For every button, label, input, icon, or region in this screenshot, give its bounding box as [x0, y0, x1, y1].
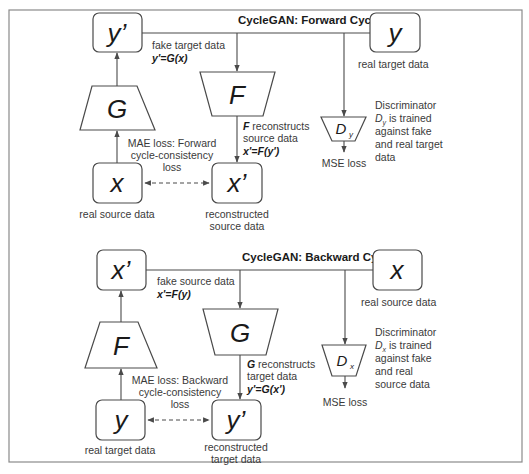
reconstructed-source-node: x’ — [212, 163, 262, 203]
dx-mse-loss: MSE loss — [323, 396, 367, 408]
reconstructed-target-node: y’ — [212, 400, 261, 440]
backward-cycle-title: CycleGAN: Backward Cycle — [242, 251, 393, 263]
dx-desc-4: and real — [375, 365, 413, 377]
g-reconstructs-equation: y'=G(x') — [246, 383, 285, 395]
f-reconstructs-caption: F reconstructs — [243, 120, 310, 132]
dx-desc-3: against fake — [375, 352, 432, 364]
real-source-caption: real source data — [79, 208, 154, 220]
reconstructed-source-caption-1: reconstructed — [205, 208, 269, 220]
dy-desc-1: Discriminator — [375, 99, 437, 111]
reconstructed-target-caption-2: target data — [211, 453, 261, 465]
fake-source-equation: x'=F(y) — [156, 288, 191, 300]
backward-real-target-node: y — [96, 400, 145, 440]
forward-cycle-loss-3: loss — [163, 161, 182, 173]
dx-desc-1: Discriminator — [375, 326, 437, 338]
dx-desc-5: source data — [375, 378, 430, 390]
backward-cycle-loss-2: cycle-consistency — [139, 386, 222, 398]
dy-desc-4: and real target — [375, 138, 443, 150]
backward-cycle-loss-1: MAE loss: Backward — [132, 374, 228, 386]
generator-f-symbol: F — [229, 80, 247, 110]
generator-f-backward-symbol: F — [113, 331, 131, 361]
backward-real-target-caption: real target data — [85, 444, 156, 456]
generator-g-backward-symbol: G — [230, 318, 250, 348]
real-target-symbol: y — [387, 18, 404, 48]
dy-desc-3: against fake — [375, 125, 432, 137]
discriminator-dx-symbol: D — [337, 352, 348, 369]
fake-target-caption: fake target data — [152, 39, 225, 51]
g-reconstructs-caption: G reconstructs — [247, 358, 315, 370]
backward-real-target-symbol: y — [113, 405, 130, 435]
reconstructed-source-symbol: x’ — [226, 168, 248, 198]
fake-target-symbol: y’ — [106, 18, 128, 48]
dy-desc-5: data — [375, 151, 396, 163]
dy-mse-loss: MSE loss — [322, 157, 366, 169]
fake-source-symbol: x’ — [110, 255, 132, 285]
real-source-symbol: x — [109, 168, 125, 198]
f-reconstructs-caption-2: source data — [243, 132, 298, 144]
fake-target-equation: y'=G(x) — [151, 52, 188, 64]
g-reconstructs-caption-2: target data — [247, 370, 297, 382]
backward-real-source-caption: real source data — [361, 296, 436, 308]
backward-cycle-loss-3: loss — [171, 398, 190, 410]
reconstructed-target-symbol: y’ — [225, 405, 247, 435]
fake-source-node: x’ — [97, 250, 146, 290]
real-target-node: y — [370, 13, 420, 52]
discriminator-dy-symbol: D — [336, 120, 347, 137]
forward-cycle-loss-2: cycle-consistency — [131, 149, 214, 161]
cyclegan-diagram: CycleGAN: Forward Cycle y’ fake target d… — [0, 0, 529, 474]
f-reconstructs-equation: x'=F(y') — [242, 145, 280, 157]
fake-target-node: y’ — [93, 13, 142, 52]
forward-cycle-title: CycleGAN: Forward Cycle — [238, 14, 381, 26]
fake-source-caption: fake source data — [157, 275, 235, 287]
forward-cycle-loss-1: MAE loss: Forward — [128, 137, 217, 149]
backward-real-source-symbol: x — [389, 255, 405, 285]
reconstructed-target-caption-1: reconstructed — [204, 441, 268, 453]
real-target-caption: real target data — [358, 58, 429, 70]
generator-g-symbol: G — [107, 94, 127, 124]
reconstructed-source-caption-2: source data — [210, 220, 265, 232]
backward-real-source-node: x — [373, 250, 422, 290]
real-source-node: x — [93, 163, 142, 203]
